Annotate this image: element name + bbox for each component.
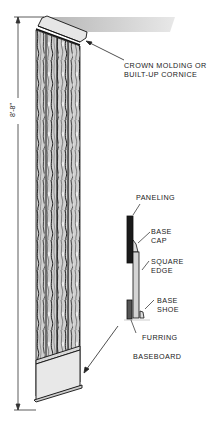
paneling-label: PANELING (136, 194, 175, 202)
base-cap-label-line2: CAP (151, 237, 167, 245)
crown-callout-line2: BUILT-UP CORNICE (124, 71, 197, 79)
square-edge-label-line2: EDGE (151, 267, 173, 275)
base-shoe-label-line2: SHOE (157, 306, 179, 314)
square-edge-label-line1: SQUARE (151, 258, 184, 266)
height-dimension-label: 8'-8" (9, 100, 21, 120)
crown-pointer (86, 41, 124, 60)
furring-label: FURRING (142, 334, 178, 342)
baseboard-label: BASEBOARD (133, 353, 181, 361)
baseboard-pointer (84, 326, 118, 373)
baseboard-section-detail (124, 216, 150, 320)
crown-callout-line1: CROWN MOLDING OR (124, 62, 207, 70)
base-cap-label-line1: BASE (151, 228, 172, 236)
base-shoe-label-line1: BASE (157, 297, 178, 305)
paneling-wall (36, 30, 80, 396)
